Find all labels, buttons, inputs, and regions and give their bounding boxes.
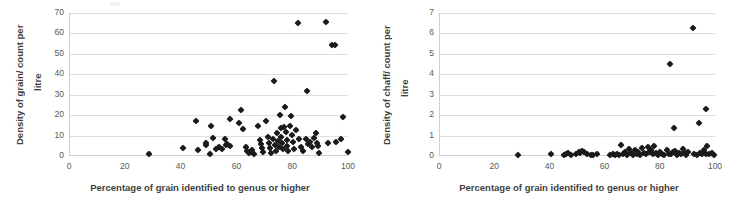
gridline [440, 13, 715, 14]
y-tick-label: 0 [44, 151, 64, 160]
x-axis-title-grain: Percentage of grain identified to genus … [40, 182, 360, 193]
y-tick-label: 0 [414, 151, 434, 160]
data-point [303, 88, 310, 95]
y-tick-label: 1 [414, 131, 434, 140]
x-tick-label: 60 [224, 162, 248, 171]
x-tick-label: 40 [537, 162, 561, 171]
data-point [193, 117, 200, 124]
y-tick-label: 2 [414, 110, 434, 119]
gridline [440, 95, 715, 96]
y-tick-label: 3 [414, 90, 434, 99]
gridline [440, 115, 715, 116]
data-point [180, 145, 187, 152]
data-point [515, 151, 522, 158]
y-axis-title-line1: Density of chaff/ count per [381, 25, 392, 145]
data-point [690, 25, 697, 32]
data-point [227, 142, 234, 149]
data-point [207, 123, 214, 130]
data-point [704, 142, 711, 149]
y-tick-label: 30 [44, 90, 64, 99]
data-point [332, 41, 339, 48]
data-point [323, 19, 330, 26]
gridline [70, 33, 348, 34]
x-tick-label: 100 [703, 162, 727, 171]
y-tick-label: 6 [414, 28, 434, 37]
data-point [226, 115, 233, 122]
gridline [440, 74, 715, 75]
gridline [70, 54, 348, 55]
data-point [316, 149, 323, 156]
data-point [238, 106, 245, 113]
figure-container: Density of grain/ count per litre Percen… [0, 0, 730, 201]
data-point [270, 77, 277, 84]
y-axis-title-line2: litre [32, 73, 43, 90]
y-tick-label: 40 [44, 69, 64, 78]
x-tick-label: 0 [427, 162, 451, 171]
data-point [260, 148, 267, 155]
data-point [299, 148, 306, 155]
gridline [70, 115, 348, 116]
y-tick-label: 20 [44, 110, 64, 119]
chart-chaff-density: Density of chaff/ count per litre Percen… [365, 0, 730, 201]
chart-grain-density: Density of grain/ count per litre Percen… [0, 0, 365, 201]
y-tick-label: 60 [44, 28, 64, 37]
x-tick-label: 20 [482, 162, 506, 171]
data-point [711, 151, 718, 158]
y-axis-title-line2: litre [399, 79, 410, 96]
gridline [70, 13, 348, 14]
data-point [344, 148, 351, 155]
scan-artifact [110, 2, 120, 6]
x-tick-label: 100 [336, 162, 360, 171]
gridline [440, 33, 715, 34]
x-tick-label: 20 [113, 162, 137, 171]
plot-area-grain [69, 13, 348, 156]
x-axis-title-chaff: Percentage of grain identified to genus … [409, 182, 729, 193]
x-tick-label: 80 [648, 162, 672, 171]
data-point [195, 146, 202, 153]
data-point [667, 60, 674, 67]
data-point [671, 125, 678, 132]
data-point [618, 141, 625, 148]
x-tick-label: 60 [593, 162, 617, 171]
y-axis-title-grain-line2: litre [32, 52, 44, 112]
x-tick-label: 40 [169, 162, 193, 171]
gridline [70, 95, 348, 96]
y-tick-label: 70 [44, 8, 64, 17]
gridline [70, 74, 348, 75]
data-point [287, 112, 294, 119]
y-tick-label: 5 [414, 49, 434, 58]
data-point [696, 119, 703, 126]
gridline [440, 136, 715, 137]
data-point [294, 20, 301, 27]
x-tick-label: 0 [57, 162, 81, 171]
data-point [281, 104, 288, 111]
y-axis-title-line1: Density of grain/ count per [14, 25, 25, 145]
data-point [325, 139, 332, 146]
data-point [703, 106, 710, 113]
data-point [239, 126, 246, 133]
y-tick-label: 10 [44, 131, 64, 140]
gridline [440, 54, 715, 55]
y-tick-label: 50 [44, 49, 64, 58]
data-point [263, 118, 270, 125]
y-tick-label: 7 [414, 8, 434, 17]
data-point [276, 112, 283, 119]
data-point [254, 122, 261, 129]
y-tick-label: 4 [414, 69, 434, 78]
x-tick-label: 80 [280, 162, 304, 171]
y-axis-title-chaff-line2: litre [399, 58, 411, 118]
plot-area-chaff [439, 13, 715, 156]
